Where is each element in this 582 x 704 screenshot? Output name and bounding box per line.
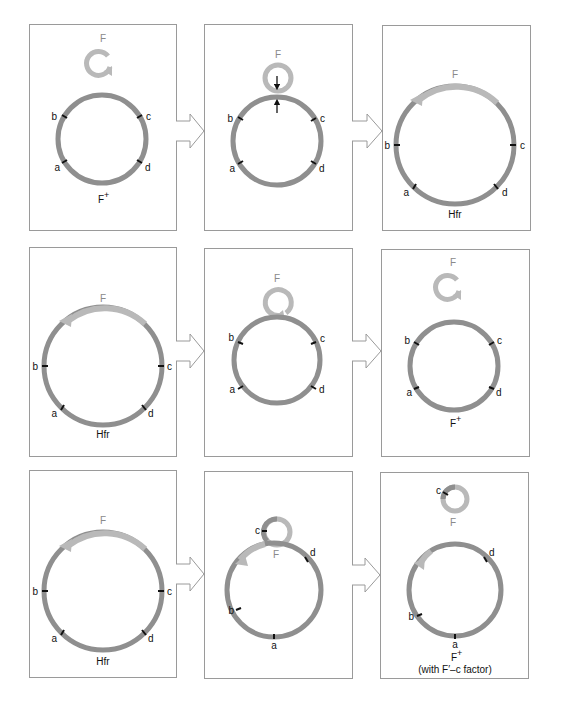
panel-hfr: F b c a d Hfr <box>32 293 172 440</box>
marker-d-label: d <box>148 408 154 419</box>
f-plasmid <box>265 65 291 91</box>
bacterial-chromosome <box>410 322 498 410</box>
next-step-arrow-icon <box>176 334 204 368</box>
f-factor-label: F <box>100 293 106 304</box>
panel-hfr-integrated: F b c a d Hfr <box>384 69 525 220</box>
gene-markers <box>62 115 142 163</box>
panel-pairing: F b c a d <box>227 49 325 185</box>
f-factor-label: F <box>100 33 106 44</box>
gene-markers <box>238 117 316 164</box>
marker-c-label: c <box>320 333 325 344</box>
marker-a-label: a <box>54 162 60 173</box>
marker-b-label: b <box>32 586 38 597</box>
f-factor-label: F <box>450 257 456 268</box>
strain-label: Hfr <box>96 429 110 440</box>
marker-a-label: a <box>229 384 235 395</box>
next-step-arrow-icon <box>352 558 380 592</box>
marker-b-label: b <box>32 361 38 372</box>
marker-a-label: a <box>51 408 57 419</box>
panel-frame <box>30 471 177 678</box>
panel-f-prime: c F d b a F+ (with F′–c factor) <box>408 485 501 675</box>
f-plasmid <box>436 275 461 300</box>
gene-markers <box>238 342 316 389</box>
marker-a-label: a <box>406 387 412 398</box>
marker-d-label: d <box>319 163 325 174</box>
panel-imprecise-loop-out: F c d b a <box>227 519 321 651</box>
panel-hfr: F b c a d Hfr <box>32 515 172 667</box>
marker-b-label: b <box>227 113 233 124</box>
marker-a-label: a <box>403 187 409 198</box>
f-factor-label: F <box>100 515 106 526</box>
panel-frame <box>205 472 353 679</box>
panel-frame <box>383 26 531 231</box>
marker-b-label: b <box>384 140 390 151</box>
f-prime-plasmid <box>443 487 467 511</box>
strain-label: Hfr <box>96 656 110 667</box>
marker-a-label: a <box>51 633 57 644</box>
next-step-arrow-icon <box>352 334 381 368</box>
f-plasmid <box>87 51 112 76</box>
panel-f-plus-free-plasmid: F b c a d F+ <box>51 33 151 205</box>
integrated-f-segment <box>68 308 145 324</box>
marker-a-label: a <box>271 640 277 651</box>
bacterial-chromosome <box>58 95 146 183</box>
marker-b-label: b <box>408 611 414 622</box>
marker-c-label: c <box>146 111 151 122</box>
strain-label: Hfr <box>448 209 462 220</box>
marker-b-label: b <box>51 111 57 122</box>
marker-a-label: a <box>229 163 235 174</box>
marker-c-label: c <box>255 525 260 536</box>
strain-label: F+ <box>450 414 461 429</box>
f-factor-label: F <box>275 49 281 60</box>
f-prime-caption: (with F′–c factor) <box>418 664 492 675</box>
marker-c-label: c <box>436 485 441 496</box>
marker-d-label: d <box>310 547 316 558</box>
marker-d-label: d <box>319 384 325 395</box>
f-factor-label: F <box>273 549 279 560</box>
marker-d-label: d <box>489 547 495 558</box>
marker-b-label: b <box>228 605 234 616</box>
marker-d-label: d <box>502 187 508 198</box>
next-step-arrow-icon <box>176 557 204 591</box>
integrated-f-segment <box>419 87 497 103</box>
marker-b-label: b <box>404 335 410 346</box>
marker-d-label: d <box>148 633 154 644</box>
panel-f-plus-restored: F b c a d F+ <box>404 257 502 429</box>
marker-c-label: c <box>520 140 525 151</box>
gene-markers <box>414 342 494 389</box>
next-step-arrow-icon <box>352 114 382 148</box>
f-factor-label: F <box>450 517 456 528</box>
marker-d-label: d <box>496 387 502 398</box>
strain-label: F+ <box>98 190 109 205</box>
conjugation-diagram: F b c a d F+ F b c a d <box>0 0 582 704</box>
marker-c-label: c <box>320 113 325 124</box>
f-factor-label: F <box>452 69 458 80</box>
marker-b-label: b <box>228 332 234 343</box>
marker-c-label: c <box>167 586 172 597</box>
integrated-f-segment <box>68 533 145 549</box>
next-step-arrow-icon <box>176 114 204 148</box>
marker-c-label: c <box>167 361 172 372</box>
panel-loop-out: F b c a d <box>228 273 325 403</box>
marker-c-label: c <box>497 335 502 346</box>
strain-label: F+ <box>451 648 462 663</box>
f-factor-label: F <box>274 273 280 284</box>
bacterial-chromosome <box>234 317 320 403</box>
marker-d-label: d <box>145 162 151 173</box>
